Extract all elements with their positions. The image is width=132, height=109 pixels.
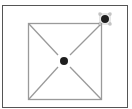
resize-handle-bl[interactable] [99,23,101,25]
canvas-frame [3,6,128,108]
resize-handle-tr[interactable] [109,13,111,15]
corner-point-dot[interactable] [101,15,109,23]
resize-handle-br[interactable] [109,23,111,25]
resize-handle-tl[interactable] [99,13,101,15]
diagram-canvas [0,0,132,109]
center-point[interactable] [60,57,68,65]
